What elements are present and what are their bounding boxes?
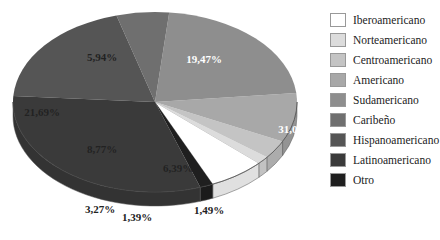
legend-label: Hispanoamericano [353, 134, 439, 146]
legend-swatch [330, 93, 346, 107]
legend-item-iberoamericano: Iberoamericano [330, 10, 439, 30]
slice-label-norteamericano: 1,39% [122, 211, 152, 223]
legend-swatch [330, 153, 346, 167]
legend-swatch [330, 73, 346, 87]
legend-item-hispanoamericano: Hispanoamericano [330, 130, 439, 150]
legend-label: Sudamericano [353, 94, 419, 106]
legend: Iberoamericano Norteamericano Centroamer… [330, 10, 439, 190]
slice-label-americano: 8,77% [87, 143, 117, 155]
legend-label: Iberoamericano [353, 14, 425, 26]
pie-top-slices [13, 12, 297, 192]
legend-label: Latinoamericano [353, 154, 431, 166]
legend-item-sudamericano: Sudamericano [330, 90, 439, 110]
legend-swatch [330, 113, 346, 127]
legend-swatch [330, 53, 346, 67]
legend-swatch [330, 33, 346, 47]
slice-label-centroamericano: 3,27% [85, 203, 115, 215]
pie-slice-sudamericano [155, 12, 296, 102]
legend-label: Caribeño [353, 114, 395, 126]
slice-label-otro: 1,49% [194, 204, 224, 216]
slice-label-iberoamericano: 6,39% [163, 162, 193, 174]
legend-item-centroamericano: Centroamericano [330, 50, 439, 70]
legend-label: Otro [353, 174, 374, 186]
slice-label-hispanoamericano: 19,47% [186, 53, 222, 65]
legend-swatch [330, 173, 346, 187]
slice-label-sudamericano: 21,69% [24, 106, 60, 118]
legend-swatch [330, 133, 346, 147]
legend-item-latinoamericano: Latinoamericano [330, 150, 439, 170]
legend-swatch [330, 13, 346, 27]
legend-item-norteamericano: Norteamericano [330, 30, 439, 50]
legend-label: Americano [353, 74, 404, 86]
legend-item-otro: Otro [330, 170, 439, 190]
legend-item-caribeno: Caribeño [330, 110, 439, 130]
pie-chart: 6,39%1,39%3,27%8,77%21,69%5,94%19,47%31,… [0, 0, 320, 240]
legend-label: Norteamericano [353, 34, 427, 46]
slice-label-caribeño: 5,94% [87, 51, 117, 63]
legend-label: Centroamericano [353, 54, 432, 66]
slice-label-latinoamericano: 31,05% [278, 123, 314, 135]
legend-item-americano: Americano [330, 70, 439, 90]
